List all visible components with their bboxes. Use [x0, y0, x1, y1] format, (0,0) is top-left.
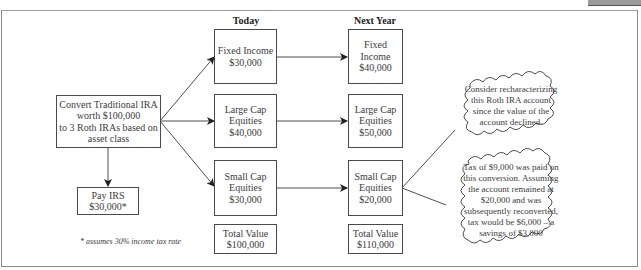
next-year-small-cap-box: Small Cap Equities $20,000 [348, 160, 403, 216]
today-large-cap-box: Large Cap Equities $40,000 [214, 94, 277, 148]
source-line: asset class [88, 133, 129, 145]
asset-label: Equities [359, 115, 392, 127]
today-small-cap-box: Small Cap Equities $30,000 [214, 160, 277, 216]
callout-line: tax would be $6,000 – a [456, 217, 566, 228]
asset-label: Equities [229, 182, 262, 194]
tax-savings-callout: Tax of $9,000 was paid on this conversio… [456, 162, 566, 239]
callout-line: savings of $3,000 [456, 228, 566, 239]
callout-line: subsequently reconverted, [456, 206, 566, 217]
source-line: to 3 Roth IRAs based on [59, 122, 158, 134]
asset-label: Fixed Income [218, 45, 273, 57]
next-year-fixed-income-box: Fixed Income $40,000 [348, 29, 403, 84]
asset-value: $40,000 [229, 127, 262, 139]
callout-line: Consider recharacterizing [458, 84, 564, 95]
callout-line: since the value of the [458, 106, 564, 117]
asset-value: $40,000 [359, 62, 392, 74]
irs-label: Pay IRS [91, 190, 124, 202]
callout-line: the account remained at [456, 184, 566, 195]
column-header-next-year: Next Year [335, 15, 415, 26]
asset-label: Fixed Income [349, 39, 402, 62]
next-year-large-cap-box: Large Cap Equities $50,000 [348, 94, 403, 148]
total-value: $100,000 [227, 239, 265, 251]
total-label: Total Value [223, 228, 269, 240]
callout-line: account declined. [458, 117, 564, 128]
today-fixed-income-box: Fixed Income $30,000 [214, 29, 277, 84]
asset-label: Large Cap [355, 104, 397, 116]
callout-line: Tax of $9,000 was paid on [456, 162, 566, 173]
asset-label: Equities [359, 182, 392, 194]
tax-rate-footnote: * assumes 30% income tax rate [80, 237, 181, 246]
asset-label: Small Cap [225, 171, 267, 183]
recharacterize-callout: Consider recharacterizing this Roth IRA … [458, 84, 564, 128]
irs-amount: $30,000* [89, 201, 127, 213]
callout-line: this conversion. Assuming [456, 173, 566, 184]
column-header-today: Today [206, 15, 286, 26]
asset-value: $20,000 [359, 194, 392, 206]
callout-line: this Roth IRA account [458, 95, 564, 106]
asset-value: $30,000 [229, 194, 262, 206]
asset-label: Large Cap [225, 104, 267, 116]
convert-ira-box: Convert Traditional IRA worth $100,000 t… [56, 95, 161, 148]
asset-value: $50,000 [359, 127, 392, 139]
asset-label: Equities [229, 115, 262, 127]
pay-irs-box: Pay IRS $30,000* [77, 187, 139, 215]
total-label: Total Value [353, 228, 399, 240]
callout-line: $20,000 and was [456, 195, 566, 206]
total-value: $110,000 [357, 239, 394, 251]
next-year-total-box: Total Value $110,000 [348, 224, 403, 254]
source-line: worth $100,000 [77, 110, 140, 122]
asset-value: $30,000 [229, 57, 262, 69]
source-line: Convert Traditional IRA [59, 99, 157, 111]
today-total-box: Total Value $100,000 [214, 224, 277, 254]
asset-label: Small Cap [355, 171, 397, 183]
